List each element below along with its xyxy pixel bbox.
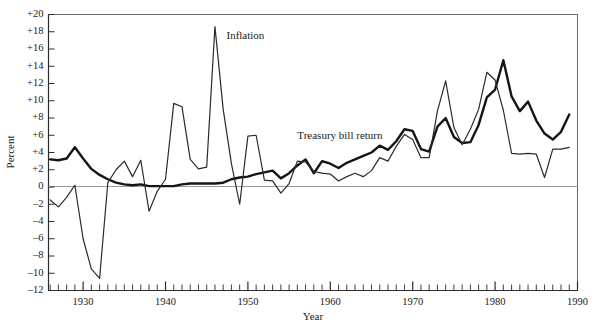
y-tick-label: –8 [32,249,44,260]
x-axis-title: Year [303,310,324,322]
annotation-inflation: Inflation [226,29,264,41]
x-tick-label: 1970 [402,296,423,307]
line-chart: +20+18+16+14+12+10+8+6+4+20–2–4–6–8–10–1… [0,0,600,332]
y-tick-label: +2 [32,163,43,174]
y-tick-label: +8 [32,111,43,122]
x-tick-label: 1990 [567,296,588,307]
y-tick-label: +16 [27,42,43,53]
y-axis-ticks [49,15,55,291]
y-tick-label: –12 [27,284,44,295]
chart-page: +20+18+16+14+12+10+8+6+4+20–2–4–6–8–10–1… [0,0,600,332]
y-tick-label: –4 [32,215,44,226]
y-tick-label: +12 [27,77,43,88]
y-tick-label: –2 [32,198,44,209]
y-tick-label: +6 [32,129,43,140]
y-tick-label: +10 [27,94,43,105]
x-tick-label: 1950 [237,296,258,307]
annotation-treasury-bill-return: Treasury bill return [297,129,383,141]
series-annotations: InflationTreasury bill return [226,29,383,141]
y-tick-label: +4 [32,146,44,157]
x-axis-minor-ticks [50,282,577,291]
y-tick-label: –10 [27,267,44,278]
x-tick-label: 1960 [320,296,341,307]
y-axis-tick-labels: +20+18+16+14+12+10+8+6+4+20–2–4–6–8–10–1… [27,8,45,295]
y-tick-label: +18 [27,25,43,36]
y-tick-label: –6 [32,232,44,243]
y-tick-label: +14 [27,60,44,71]
x-tick-label: 1980 [485,296,506,307]
plot-frame [48,15,578,291]
x-axis-tick-labels: 1930194019501960197019801990 [73,296,588,307]
y-tick-label: 0 [38,180,43,191]
data-series-group [50,27,569,279]
y-axis-title: Percent [4,136,16,169]
series-line-inflation [50,27,569,279]
y-tick-label: +20 [27,8,43,19]
x-tick-label: 1930 [73,296,94,307]
x-tick-label: 1940 [155,296,176,307]
